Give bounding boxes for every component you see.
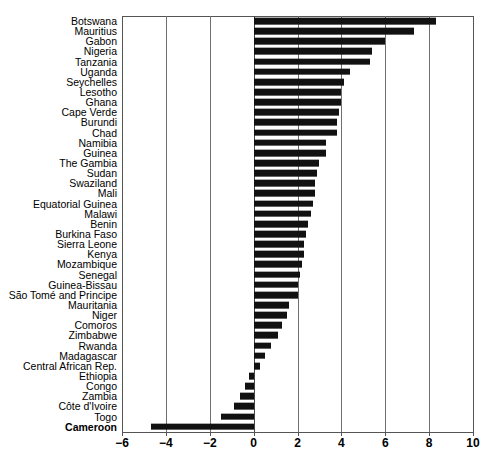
- x-tick-label: 2: [294, 436, 301, 450]
- bar: [254, 261, 302, 268]
- bar: [254, 221, 309, 228]
- bar: [254, 292, 298, 299]
- bar-row: The Gambia: [0, 158, 491, 168]
- bar: [254, 58, 370, 65]
- bar: [254, 281, 298, 288]
- bar: [221, 413, 254, 420]
- x-tick-label: 4: [338, 436, 345, 450]
- bar: [245, 383, 254, 390]
- bar: [254, 251, 304, 258]
- bar: [254, 109, 340, 116]
- bar-row: Central African Rep.: [0, 361, 491, 371]
- bar: [254, 302, 289, 309]
- x-tick-label: −4: [159, 436, 173, 450]
- bar: [254, 312, 287, 319]
- bar: [254, 332, 278, 339]
- bar: [254, 79, 344, 86]
- bar: [254, 342, 272, 349]
- tick-mark: [210, 432, 211, 436]
- tick-mark: [298, 432, 299, 436]
- bar-row: Zimbabwe: [0, 330, 491, 340]
- bar: [254, 139, 326, 146]
- bar: [254, 68, 351, 75]
- bar: [254, 150, 326, 157]
- bar: [254, 322, 283, 329]
- bar-row: Sierra Leone: [0, 239, 491, 249]
- bar-row: Cameroon: [0, 422, 491, 432]
- bar: [254, 231, 307, 238]
- bar-row: Ethiopia: [0, 371, 491, 381]
- tick-mark: [473, 432, 474, 436]
- x-tick-label: 0: [250, 436, 257, 450]
- bar-row: Mozambique: [0, 259, 491, 269]
- x-tick-label: 10: [466, 436, 479, 450]
- bar-row: Swaziland: [0, 178, 491, 188]
- bar: [254, 190, 315, 197]
- bar: [254, 180, 315, 187]
- tick-mark: [385, 432, 386, 436]
- bar: [254, 38, 386, 45]
- bar: [254, 210, 311, 217]
- x-tick-label: −2: [203, 436, 217, 450]
- bar: [254, 352, 265, 359]
- tick-mark: [341, 432, 342, 436]
- bar: [254, 89, 342, 96]
- bar-row: Tanzania: [0, 57, 491, 67]
- bar: [249, 373, 253, 380]
- bar: [254, 18, 436, 25]
- bar-row: Côte d'Ivoire: [0, 401, 491, 411]
- bar-rows: BotswanaMauritiusGabonNigeriaTanzaniaUga…: [0, 16, 491, 432]
- bar: [234, 403, 254, 410]
- bar-row: Seychelles: [0, 77, 491, 87]
- bar: [151, 423, 254, 430]
- bar: [254, 363, 261, 370]
- bar: [254, 271, 300, 278]
- bar: [254, 119, 337, 126]
- bar-row: Gabon: [0, 36, 491, 46]
- x-tick-label: 6: [382, 436, 389, 450]
- bar: [254, 200, 313, 207]
- tick-mark: [122, 432, 123, 436]
- bar: [240, 393, 253, 400]
- x-tick-label: −6: [115, 436, 129, 450]
- bar: [254, 28, 414, 35]
- bar: [254, 48, 372, 55]
- bar-row: Namibia: [0, 138, 491, 148]
- bar-row: Malawi: [0, 209, 491, 219]
- bar: [254, 129, 337, 136]
- tick-mark: [166, 432, 167, 436]
- bar-row: Mauritius: [0, 26, 491, 36]
- tick-mark: [254, 432, 255, 436]
- bar-row: Nigeria: [0, 46, 491, 56]
- bar-row: Lesotho: [0, 87, 491, 97]
- category-label: Cameroon: [65, 421, 117, 432]
- bar-row: Equatorial Guinea: [0, 199, 491, 209]
- bar: [254, 241, 304, 248]
- horizontal-bar-chart: BotswanaMauritiusGabonNigeriaTanzaniaUga…: [0, 0, 491, 473]
- bar: [254, 170, 318, 177]
- bar-row: Mauritania: [0, 300, 491, 310]
- bar-row: Burundi: [0, 117, 491, 127]
- x-axis-tick-labels: −6−4−20246810: [0, 436, 491, 456]
- x-tick-label: 8: [426, 436, 433, 450]
- tick-mark: [429, 432, 430, 436]
- bar: [254, 160, 320, 167]
- bar-row: Congo: [0, 381, 491, 391]
- bar-row: Chad: [0, 128, 491, 138]
- bar-row: Cape Verde: [0, 107, 491, 117]
- bar: [254, 99, 342, 106]
